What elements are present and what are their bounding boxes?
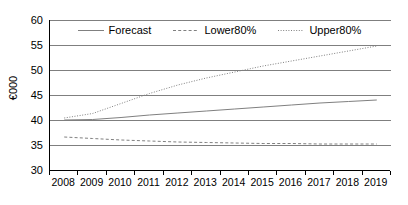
plot-area: [49, 20, 390, 170]
legend-label: Upper80%: [309, 24, 361, 36]
x-tick-label: 2011: [137, 176, 160, 189]
x-axis-tick-mark: [77, 171, 78, 175]
x-axis-ticks: [49, 171, 390, 175]
x-tick-label: 2014: [222, 176, 245, 189]
series-line-lower80: [64, 137, 377, 144]
x-tick-label: 2015: [250, 176, 273, 189]
y-tick-label: 30: [31, 165, 43, 176]
legend-item-upper80[interactable]: Upper80%: [276, 24, 363, 36]
x-tick-label: 2019: [364, 176, 387, 189]
legend-item-forecast[interactable]: Forecast: [76, 24, 154, 36]
x-tick-label: 2012: [165, 176, 188, 189]
x-axis-tick-mark: [220, 171, 221, 175]
legend-swatch-solid: [78, 26, 104, 35]
y-tick-label: 60: [31, 15, 43, 26]
x-axis-tick-mark: [106, 171, 107, 175]
x-axis-tick-mark: [333, 171, 334, 175]
y-tick-label: 40: [31, 115, 43, 126]
x-axis-tick-mark: [248, 171, 249, 175]
legend-swatch-dashed: [173, 26, 199, 35]
x-tick-label: 2013: [194, 176, 217, 189]
x-tick-label: 2018: [336, 176, 359, 189]
x-tick-label: 2009: [80, 176, 103, 189]
x-axis-tick-mark: [276, 171, 277, 175]
x-axis-tick-mark: [163, 171, 164, 175]
legend-item-lower80[interactable]: Lower80%: [171, 24, 258, 36]
legend-label: Forecast: [109, 24, 152, 36]
gridlines: [50, 21, 391, 171]
x-axis-tick-mark: [134, 171, 135, 175]
x-axis-tick-labels: 2008200920102011201220132014201520162017…: [49, 176, 390, 192]
legend-label: Lower80%: [204, 24, 256, 36]
y-axis-tick-labels: 30354045505560: [20, 0, 46, 175]
series-line-upper80: [64, 46, 377, 118]
x-axis-tick-mark: [49, 171, 50, 175]
y-tick-label: 35: [31, 140, 43, 151]
x-tick-label: 2008: [52, 176, 75, 189]
y-tick-label: 55: [31, 40, 43, 51]
x-axis-tick-mark: [305, 171, 306, 175]
plot-svg: [50, 20, 391, 170]
legend-swatch-dotted: [278, 26, 304, 35]
x-tick-label: 2017: [307, 176, 330, 189]
y-axis-title-text: €000: [7, 75, 19, 99]
x-axis-tick-mark: [191, 171, 192, 175]
y-tick-label: 50: [31, 65, 43, 76]
x-tick-label: 2016: [279, 176, 302, 189]
x-axis-tick-mark: [362, 171, 363, 175]
x-tick-label: 2010: [108, 176, 131, 189]
line-chart: €000 30354045505560 20082009201020112012…: [0, 0, 408, 205]
y-tick-label: 45: [31, 90, 43, 101]
series-line-forecast: [64, 100, 377, 120]
x-axis-tick-mark: [390, 171, 391, 175]
